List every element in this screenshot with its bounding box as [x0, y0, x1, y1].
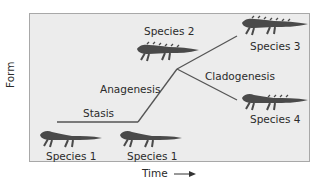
y-axis-label: Form	[4, 62, 16, 88]
species-1-middle-label: Species 1	[127, 150, 177, 162]
x-axis-label-text: Time	[142, 167, 168, 179]
species-1-left-label: Species 1	[46, 150, 96, 162]
species-2-label: Species 2	[144, 25, 194, 37]
species-3-label: Species 3	[250, 40, 300, 52]
cladogenesis-label: Cladogenesis	[205, 70, 275, 82]
arrow-right-icon	[174, 171, 196, 177]
stasis-label: Stasis	[83, 107, 114, 119]
anagenesis-line	[138, 69, 177, 122]
species-3-salamander-icon	[240, 15, 310, 37]
species-1-left-salamander-icon	[38, 127, 104, 149]
species-4-salamander-icon	[240, 90, 310, 112]
anagenesis-label: Anagenesis	[100, 83, 160, 95]
species-2-salamander-icon	[135, 41, 201, 63]
species-4-label: Species 4	[250, 113, 300, 125]
x-axis-label: Time	[142, 167, 196, 179]
species-1-middle-salamander-icon	[118, 127, 184, 149]
